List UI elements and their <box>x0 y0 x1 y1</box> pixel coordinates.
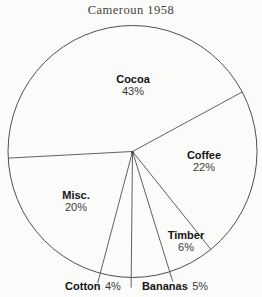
slice-label-timber: Timber 6% <box>168 229 204 253</box>
slice-label-cotton: Cotton 4% <box>65 279 121 292</box>
slice-percent: 20% <box>62 201 90 213</box>
pie-slice-boundary <box>131 152 132 288</box>
slice-name: Coffee <box>187 149 221 161</box>
pie-center-dot <box>131 151 134 154</box>
slice-name: Bananas <box>142 280 188 292</box>
slice-name: Cocoa <box>116 73 150 85</box>
slice-label-misc: Misc. 20% <box>62 189 90 213</box>
slice-label-bananas: Bananas 5% <box>142 279 208 292</box>
slice-label-cocoa: Cocoa 43% <box>116 73 150 97</box>
slice-name: Misc. <box>62 189 90 201</box>
pie-slice-boundary <box>98 152 133 284</box>
pie-slice-boundary <box>133 152 173 282</box>
pie-slice-boundary <box>8 152 132 159</box>
slice-percent: 6% <box>168 241 204 253</box>
slice-name: Timber <box>168 229 204 241</box>
slice-percent: 4% <box>105 280 121 292</box>
slice-percent: 5% <box>192 280 208 292</box>
slice-percent: 43% <box>116 85 150 97</box>
slice-percent: 22% <box>187 161 221 173</box>
pie-chart <box>0 0 262 297</box>
pie-slice-boundary <box>133 92 243 152</box>
slice-label-coffee: Coffee 22% <box>187 149 221 173</box>
slice-name: Cotton <box>65 280 100 292</box>
pie-chart-figure: Cameroun 1958 Cocoa 43% Coffee 22% Timbe… <box>0 0 262 297</box>
